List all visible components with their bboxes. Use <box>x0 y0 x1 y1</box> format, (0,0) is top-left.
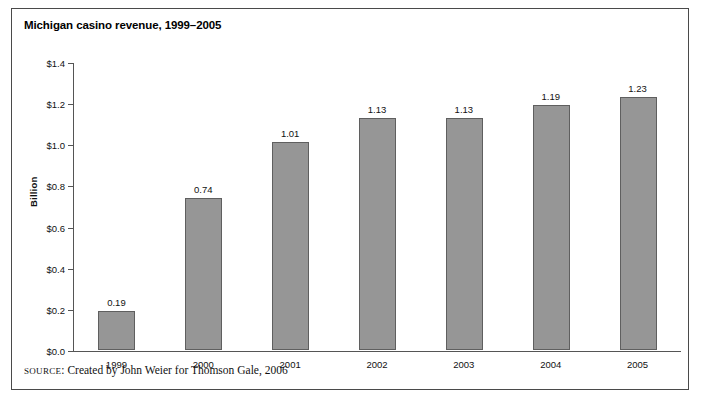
bar[interactable] <box>620 97 657 350</box>
y-tick-label: $1.2 <box>47 99 66 110</box>
source-note: SOURCE: Created by John Weier for Thomso… <box>24 364 288 376</box>
x-tick-label: 2002 <box>366 359 387 370</box>
bar[interactable] <box>185 198 222 350</box>
y-axis-title: Billion <box>28 177 39 207</box>
y-tick-label: $0.4 <box>47 263 66 274</box>
y-tick-mark <box>68 63 73 64</box>
bar-value-label: 1.13 <box>368 104 387 115</box>
x-tick-label: 2005 <box>627 359 648 370</box>
bar-value-label: 0.74 <box>194 184 213 195</box>
y-axis-line <box>73 63 74 352</box>
x-tick-label: 2004 <box>540 359 561 370</box>
y-tick-mark <box>68 186 73 187</box>
y-tick-mark <box>68 145 73 146</box>
y-tick-label: $0.0 <box>47 346 66 357</box>
figure-frame: Michigan casino revenue, 1999–2005 Billi… <box>11 8 689 390</box>
y-tick-mark <box>68 310 73 311</box>
bar[interactable] <box>533 105 570 350</box>
source-text: : Created by John Weier for Thomson Gale… <box>61 364 287 376</box>
bar[interactable] <box>359 118 396 350</box>
source-label: SOURCE <box>24 366 61 376</box>
bar-value-label: 1.01 <box>281 128 300 139</box>
y-tick-mark <box>68 104 73 105</box>
y-tick-label: $0.2 <box>47 304 66 315</box>
bar-value-label: 1.19 <box>541 91 560 102</box>
y-tick-label: $1.4 <box>47 58 66 69</box>
y-tick-label: $0.6 <box>47 222 66 233</box>
bar-value-label: 0.19 <box>107 297 126 308</box>
bar[interactable] <box>98 311 135 350</box>
bar-value-label: 1.13 <box>455 104 474 115</box>
y-tick-mark <box>68 269 73 270</box>
y-tick-label: $1.0 <box>47 140 66 151</box>
y-tick-mark <box>68 228 73 229</box>
bar[interactable] <box>272 142 309 350</box>
chart-title: Michigan casino revenue, 1999–2005 <box>24 19 221 31</box>
bar-value-label: 1.23 <box>628 83 647 94</box>
x-tick-label: 2003 <box>453 359 474 370</box>
x-axis-line <box>73 351 681 352</box>
y-tick-label: $0.8 <box>47 181 66 192</box>
bar[interactable] <box>446 118 483 350</box>
plot-area: $0.0$0.2$0.4$0.6$0.8$1.0$1.2$1.4 0.190.7… <box>73 63 681 351</box>
y-tick-mark <box>68 351 73 352</box>
